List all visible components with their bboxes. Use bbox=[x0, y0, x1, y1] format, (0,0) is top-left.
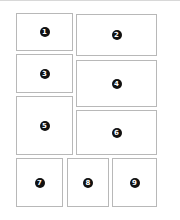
panel-2: 2 bbox=[76, 14, 157, 56]
panel-number-badge: 8 bbox=[83, 178, 93, 188]
panel-number-badge: 1 bbox=[40, 27, 50, 37]
panel-3: 3 bbox=[16, 54, 73, 93]
panel-4: 4 bbox=[76, 60, 157, 107]
panel-number-badge: 7 bbox=[35, 178, 45, 188]
panel-9: 9 bbox=[112, 158, 157, 207]
panel-1: 1 bbox=[16, 13, 73, 51]
top-divider bbox=[0, 0, 180, 1]
panel-8: 8 bbox=[67, 158, 109, 207]
panel-number-badge: 4 bbox=[112, 79, 122, 89]
panel-7: 7 bbox=[16, 158, 63, 207]
panel-5: 5 bbox=[16, 96, 73, 155]
panel-number-badge: 2 bbox=[112, 30, 122, 40]
panel-number-badge: 9 bbox=[130, 178, 140, 188]
panel-number-badge: 5 bbox=[40, 121, 50, 131]
panel-number-badge: 3 bbox=[40, 69, 50, 79]
panel-6: 6 bbox=[76, 110, 157, 155]
panel-number-badge: 6 bbox=[112, 128, 122, 138]
